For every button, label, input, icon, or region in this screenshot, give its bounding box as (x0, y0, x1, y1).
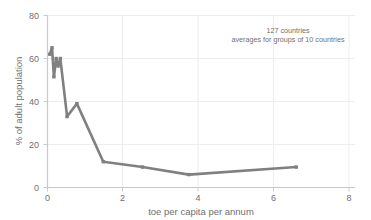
x-tick-label-2: 2 (120, 193, 125, 203)
line-chart: 80 60 40 20 0 0 2 4 6 8 toe per capita p… (0, 0, 371, 220)
data-point (50, 46, 53, 49)
data-point (75, 102, 78, 105)
chart-annotation: 127 countries averages for groups of 10 … (231, 26, 344, 44)
annotation-line-2: averages for groups of 10 countries (231, 35, 344, 44)
data-point (141, 165, 144, 168)
y-tick-label-80: 80 (29, 11, 39, 21)
data-point (56, 64, 59, 67)
data-point (102, 160, 105, 163)
y-tick-label-40: 40 (29, 97, 39, 107)
y-tick-label-60: 60 (29, 54, 39, 64)
x-tick-label-0: 0 (45, 193, 50, 203)
annotation-line-1: 127 countries (266, 26, 310, 35)
x-axis-title: toe per capita per annum (148, 206, 254, 217)
data-point (65, 115, 68, 118)
data-point (187, 173, 190, 176)
data-point (295, 165, 298, 168)
x-tick-label-6: 6 (271, 193, 276, 203)
data-markers (48, 46, 298, 176)
data-point (54, 57, 57, 60)
data-point (52, 75, 55, 78)
y-tick-labels: 80 60 40 20 0 (29, 11, 39, 193)
x-tick-label-4: 4 (195, 193, 200, 203)
y-tick-label-20: 20 (29, 140, 39, 150)
y-tick-label-0: 0 (34, 183, 39, 193)
chart-container: 80 60 40 20 0 0 2 4 6 8 toe per capita p… (0, 0, 371, 220)
data-series-group (48, 46, 298, 176)
data-line (50, 48, 296, 175)
x-tick-marks (48, 188, 350, 192)
x-tick-labels: 0 2 4 6 8 (45, 193, 352, 203)
x-tick-label-8: 8 (346, 193, 351, 203)
data-point (59, 57, 62, 60)
data-point (48, 53, 51, 56)
y-axis-title: % of adult population (13, 57, 24, 146)
